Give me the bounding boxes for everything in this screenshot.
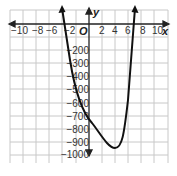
y-axis-label: y: [92, 6, 100, 18]
svg-text:−10: −10: [11, 25, 28, 36]
curve-arrow-left-icon: [59, 5, 66, 13]
origin-label: O: [79, 25, 88, 37]
svg-text:4: 4: [112, 25, 118, 36]
svg-text:−600: −600: [66, 98, 89, 109]
svg-text:−8: −8: [32, 25, 44, 36]
svg-text:6: 6: [125, 25, 131, 36]
svg-text:−6: −6: [46, 25, 58, 36]
svg-text:−1000: −1000: [61, 149, 90, 160]
svg-text:8: 8: [140, 25, 146, 36]
curve-arrow-right-icon: [132, 5, 139, 13]
svg-text:−800: −800: [66, 124, 89, 135]
svg-text:10: 10: [152, 25, 164, 36]
svg-text:2: 2: [99, 25, 105, 36]
svg-text:−400: −400: [66, 71, 89, 82]
parabola-chart: y x O −10 −8 −6 −2 2 4 6 8 10 −200 −300 …: [0, 0, 177, 176]
svg-text:−900: −900: [66, 137, 89, 148]
